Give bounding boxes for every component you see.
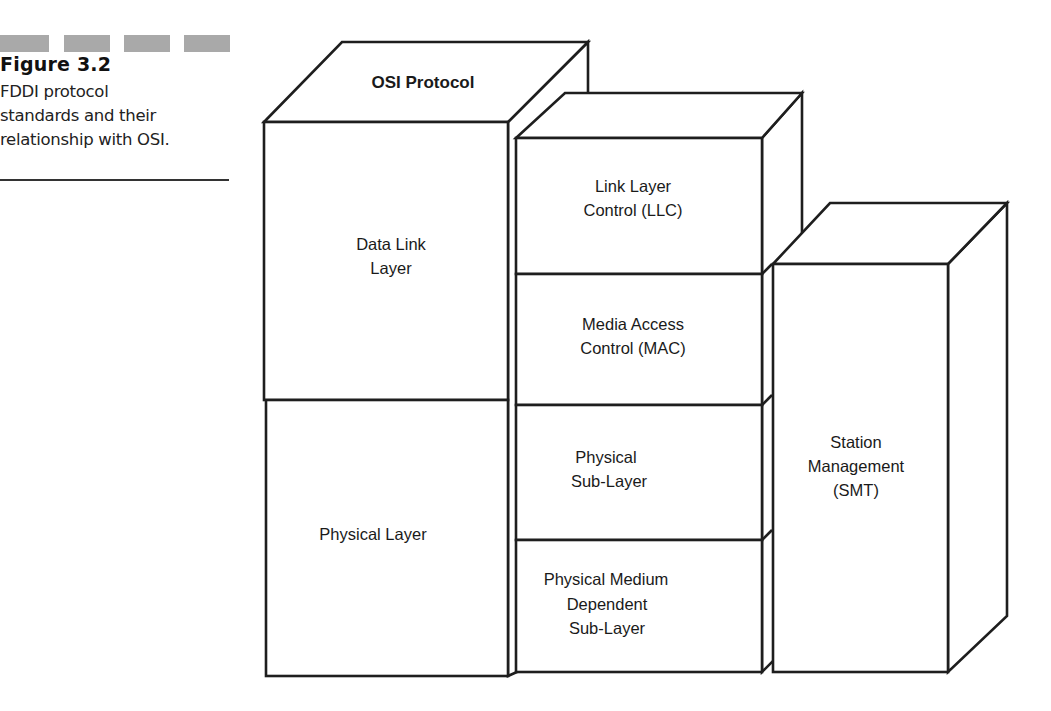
osi-layer-label: Physical Layer [319,525,427,543]
fddi-layer-label: Control (MAC) [580,339,685,357]
fddi-layer-label: Control (LLC) [583,201,682,219]
fddi-layer-label: Sub-Layer [569,619,646,637]
osi-layer-label: Data Link [356,235,426,253]
fddi-box-top-face [516,93,802,138]
fddi-stack-box: Link Layer Control (LLC) Media Access Co… [516,93,802,672]
smt-box-side-face [948,203,1007,672]
osi-protocol-title: OSI Protocol [372,73,475,92]
fddi-layer-label: Media Access [582,315,684,333]
smt-label: Management [808,457,905,475]
smt-label: Station [830,433,881,451]
fddi-layer-label: Link Layer [595,177,672,195]
fddi-layer-label: Dependent [567,595,648,613]
fddi-layer-label: Physical Medium [544,570,669,588]
fddi-osi-diagram: OSI Protocol Data Link Layer Physical La… [0,0,1051,711]
smt-box: Station Management (SMT) [773,203,1007,672]
smt-label: (SMT) [833,481,879,499]
fddi-layer-label: Physical [575,448,636,466]
osi-layer-label: Layer [370,259,412,277]
fddi-layer-label: Sub-Layer [571,472,648,490]
